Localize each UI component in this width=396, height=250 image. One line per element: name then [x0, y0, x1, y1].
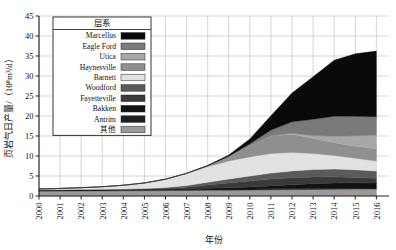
y-tick-label: 35	[25, 51, 34, 61]
x-tick-label: 2004	[119, 202, 129, 220]
y-tick-label: 5	[29, 171, 33, 181]
y-tick-label: 40	[25, 31, 34, 41]
x-tick-label: 2011	[266, 203, 276, 220]
y-tick-label: 0	[29, 191, 33, 201]
legend-item-label[interactable]: Bakken	[93, 104, 116, 113]
x-tick-label: 2002	[76, 203, 86, 220]
x-tick-label: 2007	[182, 203, 192, 220]
x-tick-label: 2013	[308, 203, 318, 220]
legend-item-label[interactable]: Woodford	[85, 83, 116, 92]
legend-swatch[interactable]	[121, 74, 145, 81]
legend-swatch[interactable]	[121, 53, 145, 60]
legend-swatch[interactable]	[121, 85, 145, 92]
legend-swatch[interactable]	[121, 64, 145, 71]
legend-item-label[interactable]: Antrim	[94, 115, 116, 124]
x-tick-label: 2016	[372, 203, 382, 220]
legend-item-label[interactable]: Barnett	[94, 73, 117, 82]
legend-item-label[interactable]: Marcellus	[86, 31, 116, 40]
y-tick-label: 25	[25, 91, 34, 101]
x-tick-label: 2015	[351, 203, 361, 220]
legend-swatch[interactable]	[121, 105, 145, 112]
x-tick-label: 2012	[287, 203, 297, 220]
legend-title: 层系	[94, 18, 110, 28]
legend-item-label[interactable]: Eagle Ford	[82, 42, 116, 51]
legend-swatch[interactable]	[121, 33, 145, 40]
x-tick-label: 2000	[34, 203, 44, 220]
x-tick-label: 2003	[98, 203, 108, 220]
legend-item-label[interactable]: 其他	[100, 124, 116, 134]
y-axis-title: 页岩气日产量/（10⁸m³/d）	[3, 54, 14, 157]
legend-swatch[interactable]	[121, 126, 145, 133]
shale-gas-production-chart: 0510152025303540452000200120022003200420…	[0, 0, 396, 250]
x-tick-label: 2006	[161, 203, 171, 220]
y-tick-label: 20	[25, 111, 34, 121]
y-tick-label: 15	[25, 131, 34, 141]
y-tick-label: 45	[25, 11, 34, 21]
y-tick-label: 10	[25, 151, 34, 161]
legend-item-label[interactable]: Haynesville	[80, 63, 117, 72]
x-tick-label: 2014	[329, 202, 339, 220]
x-tick-label: 2009	[224, 203, 234, 220]
x-tick-label: 2008	[203, 203, 213, 220]
legend-swatch[interactable]	[121, 116, 145, 123]
y-tick-label: 30	[25, 71, 34, 81]
x-tick-label: 2005	[140, 203, 150, 220]
legend-swatch[interactable]	[121, 43, 145, 50]
legend-item-label[interactable]: Fayetteville	[80, 94, 116, 103]
x-axis-title: 年份	[205, 234, 223, 245]
x-tick-label: 2010	[245, 203, 255, 220]
chart-svg: 0510152025303540452000200120022003200420…	[0, 0, 396, 250]
x-tick-label: 2001	[55, 203, 65, 220]
legend-swatch[interactable]	[121, 95, 145, 102]
legend-item-label[interactable]: Utica	[100, 52, 117, 61]
